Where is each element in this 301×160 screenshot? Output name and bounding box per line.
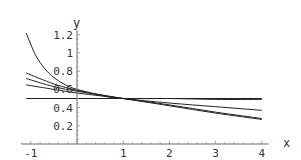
x-tick-label: 1 (120, 147, 127, 160)
x-tick-label: 3 (212, 147, 219, 160)
y-tick-label: 1.2 (53, 29, 73, 42)
axis-labels: -112340.20.40.60.811.2xy (24, 16, 290, 160)
x-tick-label: 2 (166, 147, 173, 160)
y-tick-label: 0.8 (53, 65, 73, 78)
x-tick-label: 4 (258, 147, 265, 160)
x-axis-label: x (283, 136, 290, 150)
y-axis-label: y (73, 16, 80, 30)
y-tick-label: 0.4 (53, 102, 73, 115)
y-tick-label: 0.2 (53, 120, 73, 133)
y-tick-label: 1 (66, 47, 73, 60)
y-tick-label: 0.6 (53, 83, 73, 96)
x-tick-label: -1 (24, 147, 37, 160)
line-chart: -112340.20.40.60.811.2xy (0, 0, 301, 160)
